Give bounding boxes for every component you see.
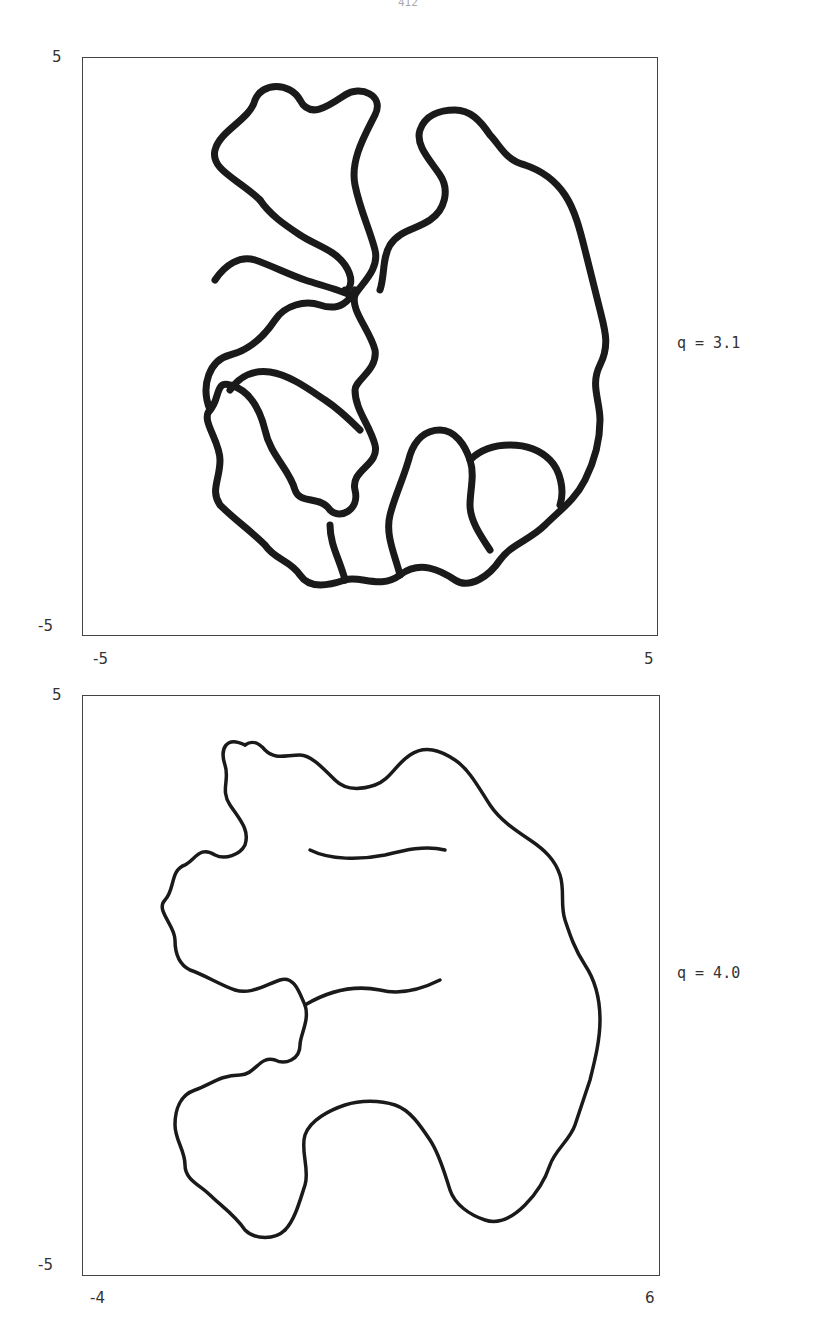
y-min-label-bottom: -5: [38, 1256, 53, 1274]
y-max-label-bottom: 5: [52, 686, 62, 704]
x-min-label-bottom: -4: [90, 1289, 105, 1307]
parameter-label-bottom: q = 4.0: [677, 964, 740, 982]
fractal-curve-bottom: [0, 0, 813, 1319]
x-max-label-bottom: 6: [645, 1289, 655, 1307]
